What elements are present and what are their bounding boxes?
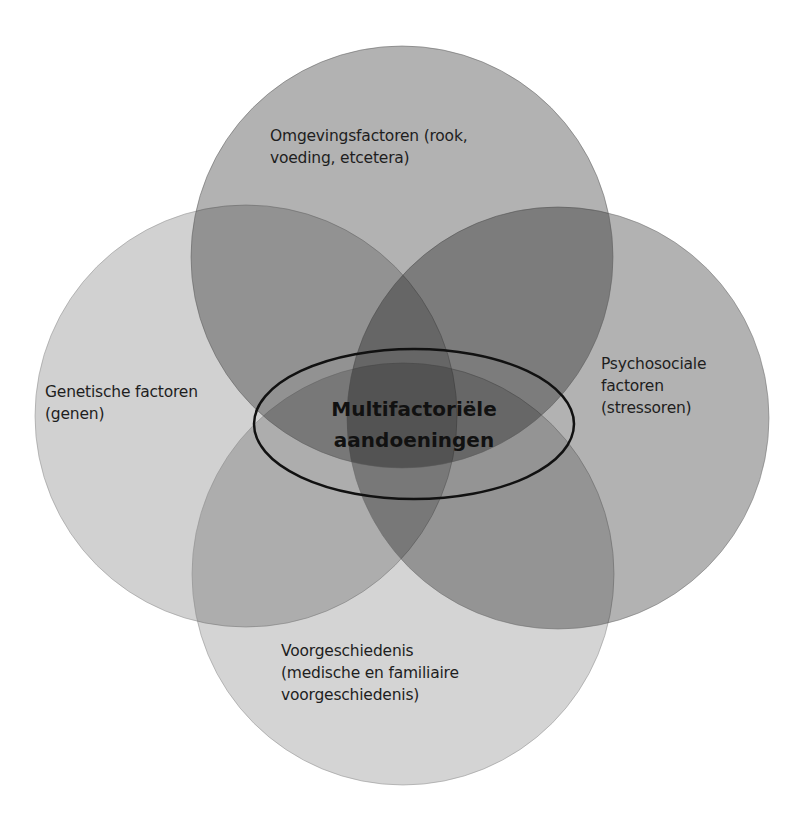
label-psychosocial-factors: Psychosociale factoren (stressoren) [601,353,706,419]
label-genetic-factors: Genetische factoren (genen) [45,381,198,425]
center-label-multifactorial-disorders: Multifactoriële aandoeningen [254,350,574,500]
label-environmental-factors: Omgevingsfactoren (rook, voeding, etcete… [270,125,467,169]
label-medical-history: Voorgeschiedenis (medische en familiaire… [281,640,459,706]
